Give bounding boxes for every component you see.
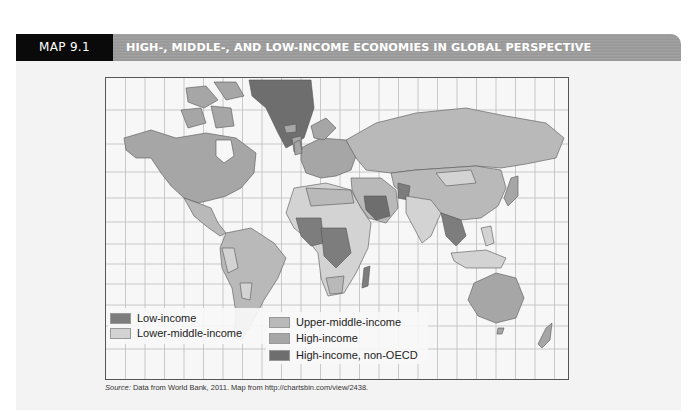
legend-swatch-high-income xyxy=(269,333,290,344)
legend-label: High-income, non-OECD xyxy=(296,349,418,361)
legend-swatch-lower-middle-income xyxy=(110,328,131,339)
map-title: HIGH-, MIDDLE-, AND LOW-INCOME ECONOMIES… xyxy=(113,34,681,61)
map-number: MAP 9.1 xyxy=(16,34,113,61)
legend-item-upper-middle-income: Upper-middle-income xyxy=(269,316,401,328)
legend-swatch-high-income-non-oecd xyxy=(269,350,290,361)
legend-item-high-income: High-income xyxy=(269,332,358,344)
source-prefix: Source: xyxy=(105,383,131,392)
legend-swatch-low-income xyxy=(110,313,131,324)
legend-label: High-income xyxy=(296,332,358,344)
source-text: Data from World Bank, 2011. Map from htt… xyxy=(131,383,368,392)
legend-label: Low-income xyxy=(137,312,196,324)
legend-swatch-upper-middle-income xyxy=(269,317,290,328)
legend-item-high-income-non-oecd: High-income, non-OECD xyxy=(269,349,418,361)
legend-label: Lower-middle-income xyxy=(137,327,242,339)
map-header: MAP 9.1 HIGH-, MIDDLE-, AND LOW-INCOME E… xyxy=(16,34,681,61)
legend-item-lower-middle-income: Lower-middle-income xyxy=(110,327,242,339)
legend-label: Upper-middle-income xyxy=(296,316,401,328)
legend-item-low-income: Low-income xyxy=(110,312,196,324)
source-caption: Source: Data from World Bank, 2011. Map … xyxy=(105,383,368,392)
